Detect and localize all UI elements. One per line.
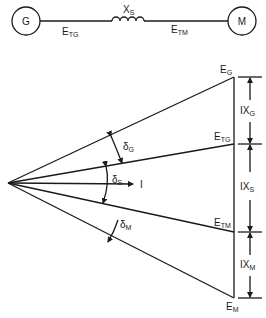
terminal-motor-label: ETM	[171, 24, 188, 36]
phasor-ETG	[8, 144, 234, 183]
motor-label: M	[238, 16, 246, 27]
phasor-EG	[8, 77, 234, 183]
generator-label: G	[22, 16, 30, 27]
delta-G-label: δG	[123, 141, 134, 153]
delta-S-arc	[103, 166, 107, 203]
EG-label: EG	[220, 64, 232, 76]
EM-label: EM	[226, 301, 239, 313]
ETG-label: ETG	[214, 131, 230, 143]
terminal-gen-label: ETG	[62, 26, 78, 38]
drop-M-label: IXM	[240, 259, 255, 271]
phasor-rays	[8, 77, 234, 298]
delta-M-label: δM	[120, 219, 132, 231]
drop-G-label: IXG	[240, 105, 255, 117]
phasor-diagram-canvas: G M XS ETG ETM δG δS I δM EG ETG ETM EM	[0, 0, 266, 318]
delta-G-arc	[111, 136, 122, 163]
circuit-diagram: G M XS ETG ETM	[12, 4, 256, 38]
drop-S-label: IXS	[240, 181, 254, 193]
reactance-label: XS	[123, 4, 135, 16]
ETM-label: ETM	[214, 217, 231, 229]
current-label: I	[140, 179, 143, 190]
delta-S-label: δS	[112, 174, 123, 186]
inductor-icon	[112, 17, 144, 21]
phasor-EM	[8, 183, 234, 298]
